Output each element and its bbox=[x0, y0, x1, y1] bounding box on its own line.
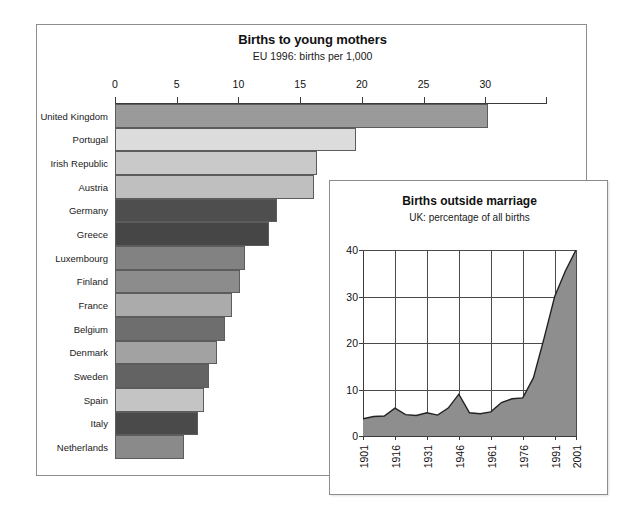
bar-category-label: United Kingdom bbox=[40, 110, 108, 121]
area-chart-x-tick bbox=[555, 436, 556, 440]
bar-category-label: Belgium bbox=[74, 323, 108, 334]
area-chart-x-tick-label: 1931 bbox=[422, 445, 434, 468]
bar-category-label: Austria bbox=[78, 181, 108, 192]
bar-chart-x-tick-label: 30 bbox=[479, 78, 491, 90]
bar-chart-x-tick-label: 20 bbox=[356, 78, 368, 90]
bar-chart-x-tick bbox=[177, 97, 178, 104]
bar-chart-x-tick-label: 10 bbox=[233, 78, 245, 90]
area-chart-x-tick bbox=[576, 436, 577, 440]
area-chart-x-tick bbox=[363, 436, 364, 440]
area-chart-vertical-gridline bbox=[576, 250, 577, 436]
area-chart-y-tick-label: 10 bbox=[346, 384, 358, 396]
bar-category-label: Portugal bbox=[73, 134, 108, 145]
bar-segment bbox=[115, 341, 217, 365]
page-subtitle: EU 1996: births per 1,000 bbox=[37, 50, 588, 62]
area-chart-y-tick bbox=[359, 343, 363, 344]
page-title: Births to young mothers bbox=[37, 32, 588, 47]
bar-segment bbox=[115, 270, 240, 294]
area-chart-x-tick-label: 1976 bbox=[518, 445, 530, 468]
area-chart-x-tick-label: 2001 bbox=[571, 445, 583, 468]
bar-segment bbox=[115, 199, 277, 223]
bar-category-label: Sweden bbox=[74, 371, 108, 382]
bar-category-label: Netherlands bbox=[57, 442, 108, 453]
bar-chart-x-tick bbox=[362, 97, 363, 104]
bar-chart-x-tick bbox=[424, 97, 425, 104]
bar-category-label: Italy bbox=[91, 418, 108, 429]
area-chart-x-tick bbox=[459, 436, 460, 440]
area-chart-y-tick-label: 0 bbox=[352, 430, 358, 442]
bar-chart-row: Irish Republic bbox=[115, 151, 547, 175]
bar-category-label: Germany bbox=[69, 205, 108, 216]
bar-category-label: Luxembourg bbox=[55, 252, 108, 263]
bar-category-label: Greece bbox=[77, 229, 108, 240]
bar-segment bbox=[115, 412, 198, 436]
area-chart-y-tick bbox=[359, 297, 363, 298]
bar-chart-x-tick-label: 25 bbox=[418, 78, 430, 90]
bar-segment bbox=[115, 151, 317, 175]
bar-segment bbox=[115, 293, 232, 317]
bar-category-label: Denmark bbox=[69, 347, 108, 358]
area-chart-x-tick bbox=[395, 436, 396, 440]
births-outside-marriage-panel: Births outside marriage UK: percentage o… bbox=[329, 180, 608, 495]
bar-chart-x-tick bbox=[546, 97, 547, 104]
bar-chart-x-tick bbox=[485, 97, 486, 104]
bar-segment bbox=[115, 222, 269, 246]
bar-chart-x-tick-label: 0 bbox=[112, 78, 118, 90]
bar-chart-x-tick-label: 5 bbox=[174, 78, 180, 90]
bar-category-label: Spain bbox=[84, 394, 108, 405]
bar-chart-x-tick-label: 15 bbox=[294, 78, 306, 90]
bar-chart-row: Portugal bbox=[115, 128, 547, 152]
area-chart-x-tick-label: 1916 bbox=[390, 445, 402, 468]
bar-category-label: Finland bbox=[77, 276, 108, 287]
area-chart-y-tick bbox=[359, 390, 363, 391]
bar-segment bbox=[115, 364, 209, 388]
area-chart-x-tick bbox=[523, 436, 524, 440]
bar-chart-x-tick bbox=[300, 97, 301, 104]
area-chart-x-tick-label: 1946 bbox=[454, 445, 466, 468]
bar-chart-x-tick bbox=[115, 97, 116, 104]
bar-segment bbox=[115, 246, 245, 270]
bar-segment bbox=[115, 435, 184, 459]
area-chart-x-tick bbox=[427, 436, 428, 440]
area-chart-y-tick-label: 40 bbox=[346, 244, 358, 256]
inset-title: Births outside marriage bbox=[330, 194, 609, 208]
area-chart-y-tick bbox=[359, 250, 363, 251]
area-chart-y-tick-label: 20 bbox=[346, 337, 358, 349]
area-chart-x-tick-label: 1901 bbox=[358, 445, 370, 468]
bar-segment bbox=[115, 317, 225, 341]
bar-segment bbox=[115, 104, 488, 128]
bar-chart-row: United Kingdom bbox=[115, 104, 547, 128]
area-chart-plot-area: 010203040 190119161931194619611976199120… bbox=[363, 250, 576, 436]
area-chart-x-tick-label: 1991 bbox=[550, 445, 562, 468]
inset-subtitle: UK: percentage of all births bbox=[330, 212, 609, 223]
bar-chart-x-tick bbox=[238, 97, 239, 104]
bar-segment bbox=[115, 388, 204, 412]
area-chart-x-tick-label: 1961 bbox=[486, 445, 498, 468]
bar-segment bbox=[115, 128, 356, 152]
bar-category-label: Irish Republic bbox=[50, 158, 108, 169]
area-chart-y-tick-label: 30 bbox=[346, 291, 358, 303]
area-chart-x-tick bbox=[491, 436, 492, 440]
bar-segment bbox=[115, 175, 314, 199]
bar-category-label: France bbox=[78, 300, 108, 311]
